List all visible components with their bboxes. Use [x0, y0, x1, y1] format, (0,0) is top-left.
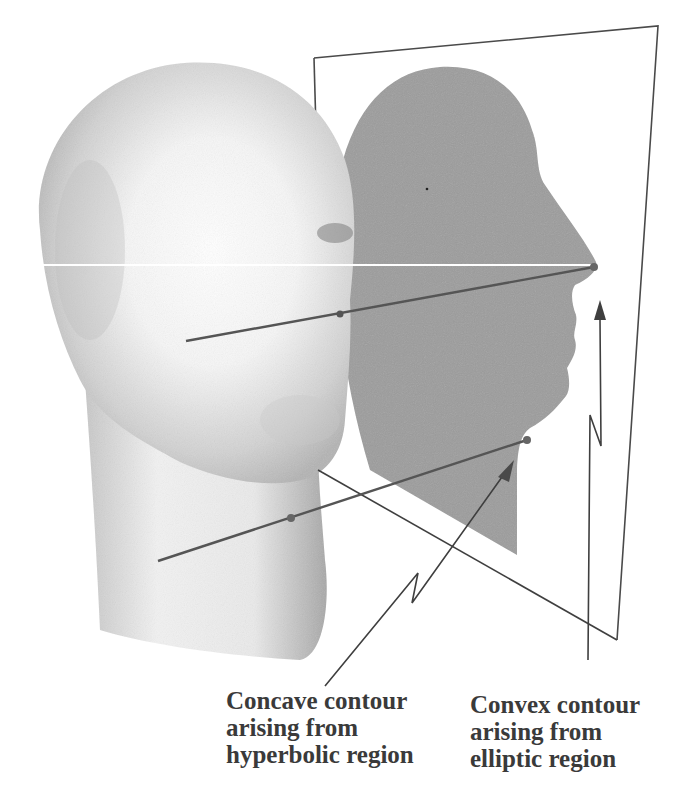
head-contour-diagram	[0, 0, 683, 795]
label-concave-line3: hyperbolic region	[226, 741, 414, 768]
eye-socket-shade	[317, 223, 353, 243]
small-dot	[426, 188, 429, 191]
cheek-shade	[260, 395, 340, 445]
label-convex-contour: Convex contour arising from elliptic reg…	[470, 691, 640, 772]
label-concave-contour: Concave contour arising from hyperbolic …	[226, 687, 414, 768]
profile-silhouette	[337, 67, 597, 555]
label-concave-line2: arising from	[226, 714, 414, 741]
label-convex-line3: elliptic region	[470, 745, 640, 772]
label-convex-line2: arising from	[470, 718, 640, 745]
label-convex-line1: Convex contour	[470, 691, 640, 718]
lower-contact-point	[287, 514, 295, 522]
upper-contact-point	[337, 311, 344, 318]
convex-arrow-line	[588, 320, 601, 660]
convex-arrowhead	[594, 300, 606, 320]
nose-projection-point	[590, 263, 598, 271]
temple-shade	[55, 160, 125, 340]
label-concave-line1: Concave contour	[226, 687, 414, 714]
chin-projection-point	[523, 436, 531, 444]
